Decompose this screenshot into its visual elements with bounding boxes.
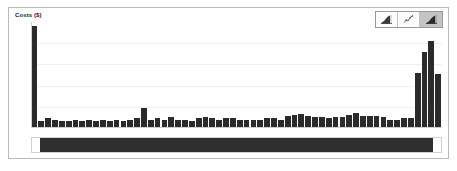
bar[interactable] bbox=[422, 52, 428, 128]
chart-panel: Costs ($) bbox=[8, 7, 449, 159]
bar[interactable] bbox=[32, 26, 38, 128]
y-axis-title: Costs ($) bbox=[15, 12, 42, 18]
plot-area bbox=[31, 22, 442, 128]
horizontal-range-slider[interactable] bbox=[31, 137, 442, 153]
chart-screenshot: Costs ($) bbox=[0, 0, 457, 171]
x-axis-line bbox=[31, 127, 442, 128]
bar[interactable] bbox=[298, 114, 304, 128]
range-slider-thumb[interactable] bbox=[40, 138, 433, 152]
bar[interactable] bbox=[435, 74, 441, 128]
bar-series bbox=[31, 22, 442, 128]
bar[interactable] bbox=[141, 108, 147, 128]
bar[interactable] bbox=[353, 113, 359, 128]
bar[interactable] bbox=[415, 73, 421, 128]
bar[interactable] bbox=[428, 41, 434, 128]
